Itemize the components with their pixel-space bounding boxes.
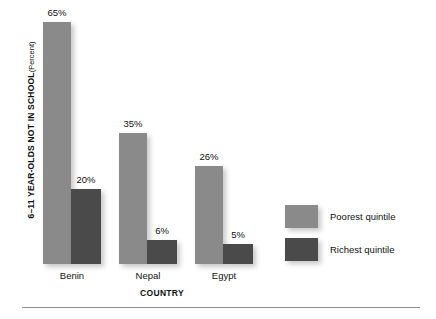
bar-rect-benin-richest xyxy=(71,189,101,264)
legend-item-richest[interactable]: Richest quintile xyxy=(285,238,395,261)
legend-item-poorest[interactable]: Poorest quintile xyxy=(285,205,395,228)
bar-rect-egypt-richest xyxy=(223,244,253,264)
chart-legend: Poorest quintile Richest quintile xyxy=(285,205,395,271)
x-axis-title: COUNTRY xyxy=(36,288,288,298)
legend-swatch-richest-icon xyxy=(285,238,318,261)
bar-rect-benin-poorest xyxy=(43,22,71,264)
bar-rect-nepal-poorest xyxy=(119,133,147,264)
legend-label-poorest: Poorest quintile xyxy=(330,211,395,222)
bar-rect-nepal-richest xyxy=(147,240,177,264)
y-axis-title-main: 6–11 YEAR-OLDS NOT IN SCHOOL xyxy=(26,72,36,218)
bar-egypt-poorest[interactable]: 26% xyxy=(195,8,223,264)
bar-benin-poorest[interactable]: 65% xyxy=(43,8,71,264)
bar-value-benin-poorest: 65% xyxy=(47,7,66,18)
category-label-egypt: Egypt xyxy=(212,270,236,281)
bar-group-nepal: 35% 6% Nepal xyxy=(119,8,183,264)
bar-value-benin-richest: 20% xyxy=(76,174,95,185)
category-label-benin: Benin xyxy=(60,270,84,281)
bar-nepal-richest[interactable]: 6% xyxy=(147,8,177,264)
bar-egypt-richest[interactable]: 5% xyxy=(223,8,253,264)
category-label-nepal: Nepal xyxy=(136,270,161,281)
bar-value-egypt-poorest: 26% xyxy=(199,151,218,162)
legend-label-richest: Richest quintile xyxy=(330,244,394,255)
bar-group-benin: 65% 20% Benin xyxy=(43,8,107,264)
footer-divider xyxy=(22,307,420,308)
bar-group-egypt: 26% 5% Egypt xyxy=(195,8,259,264)
bar-value-nepal-richest: 6% xyxy=(155,225,169,236)
bar-value-nepal-poorest: 35% xyxy=(123,118,142,129)
plot-area: 65% 20% Benin 35% 6% Nepal 26% xyxy=(36,8,288,264)
bar-benin-richest[interactable]: 20% xyxy=(71,8,101,264)
y-axis-title: 6–11 YEAR-OLDS NOT IN SCHOOL(Percent) xyxy=(26,5,36,255)
legend-swatch-poorest-icon xyxy=(285,205,318,228)
bar-rect-egypt-poorest xyxy=(195,166,223,264)
bar-value-egypt-richest: 5% xyxy=(231,229,245,240)
bar-chart-figure: 6–11 YEAR-OLDS NOT IN SCHOOL(Percent) 65… xyxy=(0,0,436,319)
y-axis-title-unit: (Percent) xyxy=(27,41,36,72)
bar-nepal-poorest[interactable]: 35% xyxy=(119,8,147,264)
